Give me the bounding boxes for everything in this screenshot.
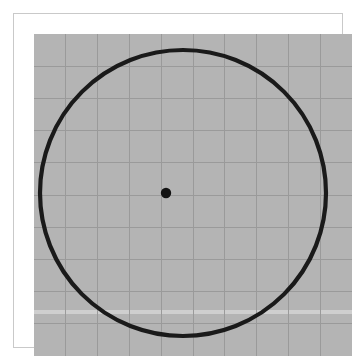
figure-frame — [13, 13, 343, 348]
figure-canvas — [0, 0, 357, 363]
center-point-marker — [161, 188, 171, 198]
plot-svg — [34, 34, 352, 356]
circle-outline — [40, 50, 326, 336]
plot-area — [34, 34, 352, 356]
